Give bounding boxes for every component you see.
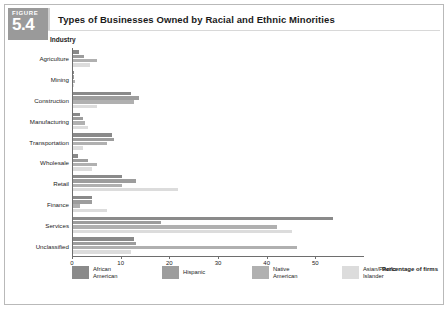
bar — [73, 142, 107, 145]
bar — [73, 237, 134, 240]
x-axis-tick — [267, 256, 268, 259]
category-label: Retail — [53, 180, 69, 187]
bar — [73, 84, 74, 87]
category-label: Finance — [47, 200, 69, 207]
bar-group: Construction — [73, 90, 364, 111]
bar — [73, 154, 78, 157]
category-label: Mining — [51, 76, 69, 83]
bar — [73, 133, 112, 136]
bar — [73, 71, 74, 74]
bar — [73, 159, 88, 162]
legend-swatch — [342, 266, 359, 279]
category-label: Transportation — [29, 138, 69, 145]
bar-group: Services — [73, 214, 364, 235]
bar-group: Agriculture — [73, 48, 364, 69]
bar — [73, 50, 79, 53]
category-label: Services — [45, 221, 69, 228]
bar — [73, 80, 75, 83]
x-axis-tick — [121, 256, 122, 259]
legend-label: African American — [93, 266, 117, 279]
x-axis-tick — [218, 256, 219, 259]
y-axis-title: Industry — [50, 36, 76, 43]
bar — [73, 146, 83, 149]
bar — [73, 55, 84, 58]
bar — [73, 113, 80, 116]
bar — [73, 250, 131, 253]
bar — [73, 225, 277, 228]
bar — [73, 117, 83, 120]
legend-label: Native American — [273, 266, 297, 279]
legend-swatch — [162, 266, 179, 279]
figure-number-label: 5.4 — [12, 16, 34, 33]
category-label: Unclassified — [36, 242, 69, 249]
bar — [73, 221, 161, 224]
bar — [73, 105, 97, 108]
bar — [73, 209, 107, 212]
legend-swatch — [72, 266, 89, 279]
page-title: Types of Businesses Owned by Racial and … — [58, 14, 335, 25]
bar — [73, 217, 333, 220]
legend-item: African American — [72, 266, 117, 279]
bar-group: Wholesale — [73, 152, 364, 173]
bar-group: Manufacturing — [73, 110, 364, 131]
bar — [73, 242, 136, 245]
x-axis-title: Percentage of firms — [380, 266, 440, 273]
bar — [73, 196, 92, 199]
bar — [73, 175, 122, 178]
bar — [73, 126, 88, 129]
category-label: Manufacturing — [30, 117, 69, 124]
bar — [73, 100, 134, 103]
bar — [73, 188, 178, 191]
bar — [73, 200, 92, 203]
bar-group: Mining — [73, 69, 364, 90]
x-axis-tick — [169, 256, 170, 259]
plot-canvas: AgricultureMiningConstructionManufacturi… — [72, 48, 364, 256]
legend-swatch — [252, 266, 269, 279]
category-label: Wholesale — [40, 159, 69, 166]
chart-legend: African AmericanHispanicNative AmericanA… — [72, 266, 372, 288]
bar — [73, 138, 114, 141]
title-divider — [48, 30, 440, 31]
legend-label: Hispanic — [183, 269, 205, 275]
figure-page: FIGURE 5.4 Types of Businesses Owned by … — [0, 0, 448, 309]
bar — [73, 246, 297, 249]
bar — [73, 163, 97, 166]
x-axis-tick — [72, 256, 73, 259]
bar — [73, 184, 122, 187]
category-label: Agriculture — [39, 55, 69, 62]
bar — [73, 121, 85, 124]
chart-area: Industry AgricultureMiningConstructionMa… — [8, 34, 440, 301]
bar — [73, 167, 92, 170]
bar — [73, 75, 74, 78]
bar — [73, 204, 80, 207]
bar-group: Unclassified — [73, 235, 364, 256]
bar — [73, 59, 97, 62]
bar-group: Retail — [73, 173, 364, 194]
bar — [73, 63, 90, 66]
bar — [73, 92, 131, 95]
legend-item: Hispanic — [162, 266, 205, 279]
bar-group: Transportation — [73, 131, 364, 152]
bar — [73, 230, 292, 233]
category-label: Construction — [34, 96, 69, 103]
x-axis-tick — [315, 256, 316, 259]
legend-item: Native American — [252, 266, 297, 279]
bar — [73, 96, 139, 99]
figure-title-bar: Types of Businesses Owned by Racial and … — [48, 8, 440, 30]
bar-group: Finance — [73, 194, 364, 215]
bar — [73, 179, 136, 182]
